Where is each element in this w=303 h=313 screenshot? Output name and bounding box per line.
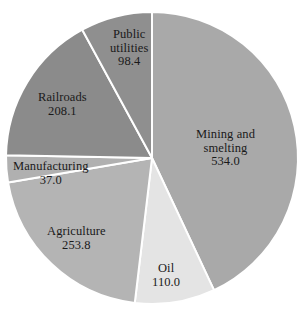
bottom-margin xyxy=(0,304,303,313)
pie-slice-group xyxy=(6,12,298,304)
pie-chart-svg xyxy=(0,0,303,313)
pie-chart: Mining and smelting 534.0 Oil 110.0 Agri… xyxy=(0,0,303,313)
